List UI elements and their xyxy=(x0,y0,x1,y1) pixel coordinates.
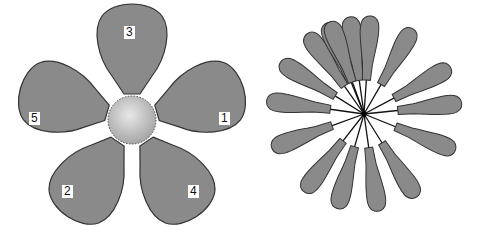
right-flower xyxy=(265,15,462,212)
petal-3 xyxy=(97,4,167,94)
petal-label-3: 3 xyxy=(124,26,135,39)
petal-5 xyxy=(11,54,117,146)
petal-label-1: 1 xyxy=(219,112,230,125)
flower-center xyxy=(108,96,156,144)
petal-1 xyxy=(147,54,253,146)
petal-label-2: 2 xyxy=(62,185,73,198)
petal-label-5: 5 xyxy=(29,112,40,125)
petal-label-4: 4 xyxy=(188,185,199,198)
